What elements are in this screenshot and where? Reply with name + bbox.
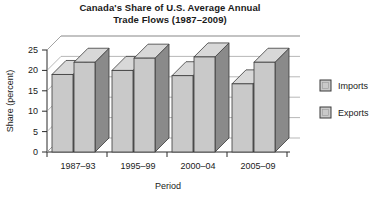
- xtick-label-2: 2000–04: [180, 161, 215, 171]
- legend-swatch-exports-inner-icon: [323, 110, 329, 116]
- bar-exports-0: [74, 48, 109, 152]
- x-axis-ticks: [47, 152, 287, 157]
- bar-front-face: [232, 84, 253, 152]
- xtick-label-3: 2005–09: [240, 161, 275, 171]
- bar-front-face: [52, 74, 73, 152]
- bar-front-face: [194, 57, 215, 152]
- xtick-label-0: 1987–93: [60, 161, 95, 171]
- ytick-label-15: 15: [28, 86, 38, 96]
- bar-side-face: [155, 44, 169, 152]
- frame-top-edge: [47, 36, 300, 50]
- ytick-label-5: 5: [33, 127, 38, 137]
- legend-label-imports: Imports: [338, 81, 369, 91]
- bar-chart-plot: 0 5 10 15 20 25 1987–93 1995–99 2000–04 …: [0, 0, 392, 200]
- chart-container: Canada's Share of U.S. Average Annual Tr…: [0, 0, 392, 200]
- ytick-label-10: 10: [28, 106, 38, 116]
- x-axis-title: Period: [155, 181, 181, 191]
- ytick-label-25: 25: [28, 45, 38, 55]
- chart-legend: Imports Exports: [320, 80, 369, 118]
- bar-exports-3: [254, 48, 289, 152]
- y-axis-ticks: [42, 50, 47, 152]
- bar-front-face: [134, 58, 155, 152]
- bar-side-face: [275, 48, 289, 152]
- ytick-label-0: 0: [33, 147, 38, 157]
- xtick-label-1: 1995–99: [120, 161, 155, 171]
- legend-swatch-imports-inner-icon: [323, 83, 329, 89]
- x-axis-category-labels: 1987–93 1995–99 2000–04 2005–09: [60, 161, 275, 171]
- legend-label-exports: Exports: [338, 108, 369, 118]
- legend-item-exports[interactable]: Exports: [320, 107, 369, 118]
- bar-exports-2: [194, 43, 229, 152]
- legend-item-imports[interactable]: Imports: [320, 80, 369, 91]
- bar-side-face: [215, 43, 229, 152]
- gridline-25: [47, 36, 300, 50]
- ytick-label-20: 20: [28, 65, 38, 75]
- bar-front-face: [254, 62, 275, 152]
- y-axis-tick-labels: 0 5 10 15 20 25: [28, 45, 38, 157]
- bar-front-face: [172, 76, 193, 152]
- bar-exports-1: [134, 44, 169, 152]
- bar-front-face: [112, 70, 133, 152]
- y-axis-title: Share (percent): [5, 70, 15, 133]
- bar-front-face: [74, 62, 95, 152]
- bar-side-face: [95, 48, 109, 152]
